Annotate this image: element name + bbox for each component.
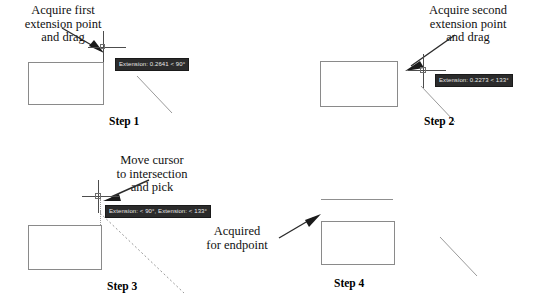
figure-canvas: Acquire first extension point and drag E… — [0, 0, 553, 298]
step-3-label: Step 3 — [107, 280, 137, 292]
step-2-leader-arrow — [397, 32, 459, 74]
step-4-label: Step 4 — [334, 277, 364, 289]
step-4-caption-line-2: for endpoint — [194, 239, 280, 253]
step-1-caption-line-1: Acquire first — [4, 4, 122, 18]
step-1-leader-arrow — [60, 26, 112, 56]
step-2-rectangle — [320, 61, 398, 107]
step-2-label: Step 2 — [424, 115, 454, 127]
step-3-caption-line-1: Move cursor — [94, 154, 210, 168]
step-2-caption-line-1: Acquire second — [405, 4, 531, 18]
step-3-leader-arrow — [95, 178, 153, 204]
step-1-rectangle — [28, 62, 104, 105]
step-3-rectangle — [28, 225, 102, 270]
step-4-diagonal-line — [437, 234, 491, 282]
step-2-panel: Acquire second extension point and drag … — [277, 0, 553, 149]
step-1-diagonal-line — [130, 70, 180, 118]
step-4-rectangle — [321, 221, 395, 265]
step-2-caption-line-2: extension point — [405, 18, 531, 32]
step-4-panel: Acquired for endpoint Step 4 — [277, 149, 553, 298]
step-4-leader-arrow — [277, 212, 327, 242]
step-4-extension-line — [321, 199, 393, 200]
step-4-caption-line-1: Acquired — [194, 225, 280, 239]
step-3-tooltip: Extension: < 90°, Extension: < 133° — [105, 205, 211, 218]
step-1-label: Step 1 — [109, 115, 139, 127]
step-1-panel: Acquire first extension point and drag E… — [0, 0, 276, 149]
step-4-caption: Acquired for endpoint — [194, 225, 280, 252]
